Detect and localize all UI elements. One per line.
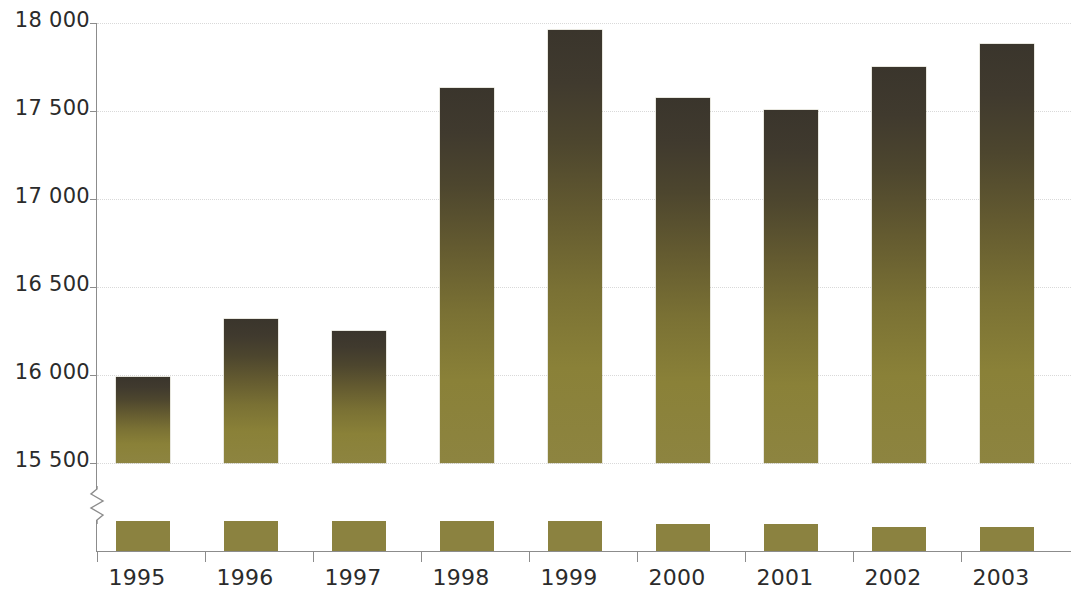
y-tick-label-15500: 15 500 — [6, 448, 90, 472]
x-tick-label-1995: 1995 — [83, 565, 191, 590]
x-tick-label-2002: 2002 — [839, 565, 947, 590]
plot-area — [97, 0, 1071, 551]
bar-stub-2002 — [872, 527, 926, 551]
bar-1999 — [548, 30, 602, 463]
x-tick-5 — [637, 551, 638, 562]
bar-chart: 18 000 17 500 17 000 16 500 16 000 15 50… — [0, 0, 1071, 596]
x-tick-4 — [529, 551, 530, 562]
bar-stub-2001 — [764, 524, 818, 551]
x-tick-label-2000: 2000 — [623, 565, 731, 590]
bar-stub-1997 — [332, 521, 386, 551]
y-tick-label-17500: 17 500 — [6, 96, 90, 120]
y-tick-label-16500: 16 500 — [6, 272, 90, 296]
y-tick-label-16000: 16 000 — [6, 360, 90, 384]
x-tick-label-1999: 1999 — [515, 565, 623, 590]
y-tick-17500 — [90, 111, 97, 112]
x-tick-2 — [313, 551, 314, 562]
x-tick-6 — [745, 551, 746, 562]
bar-stub-1999 — [548, 521, 602, 551]
bar-stub-1996 — [224, 521, 278, 551]
bar-2001 — [764, 110, 818, 463]
y-axis-line-lower — [96, 520, 97, 552]
bar-1996 — [224, 319, 278, 463]
y-tick-label-18000: 18 000 — [6, 8, 90, 32]
axis-break-icon — [88, 486, 108, 524]
y-axis-labels: 18 000 17 500 17 000 16 500 16 000 15 50… — [0, 0, 90, 551]
bar-stub-1998 — [440, 521, 494, 551]
x-tick-label-2003: 2003 — [947, 565, 1055, 590]
y-tick-16500 — [90, 287, 97, 288]
y-axis-line — [96, 23, 97, 490]
y-tick-17000 — [90, 199, 97, 200]
gridline-18000 — [97, 23, 1071, 24]
x-tick-1 — [205, 551, 206, 562]
bar-2002 — [872, 67, 926, 463]
bar-1995 — [116, 377, 170, 463]
gridline-15500 — [97, 463, 1071, 464]
x-tick-7 — [853, 551, 854, 562]
x-tick-label-1997: 1997 — [299, 565, 407, 590]
y-tick-15500 — [90, 463, 97, 464]
bar-1997 — [332, 331, 386, 463]
x-tick-0 — [97, 551, 98, 562]
x-axis-line — [96, 551, 1071, 552]
x-tick-label-2001: 2001 — [731, 565, 839, 590]
x-tick-8 — [961, 551, 962, 562]
y-tick-16000 — [90, 375, 97, 376]
bar-2003 — [980, 44, 1034, 463]
bar-2000 — [656, 98, 710, 463]
bar-1998 — [440, 88, 494, 463]
x-tick-label-1998: 1998 — [407, 565, 515, 590]
bar-stub-2000 — [656, 524, 710, 551]
x-tick-label-1996: 1996 — [191, 565, 299, 590]
y-tick-label-17000: 17 000 — [6, 184, 90, 208]
y-tick-18000 — [90, 23, 97, 24]
bar-stub-2003 — [980, 527, 1034, 551]
x-tick-3 — [421, 551, 422, 562]
bar-stub-1995 — [116, 521, 170, 551]
